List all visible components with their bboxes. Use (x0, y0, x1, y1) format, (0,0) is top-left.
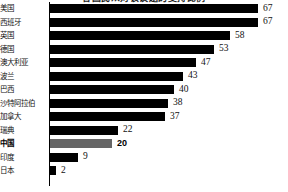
chart-row: 英国 58 (0, 29, 288, 43)
value-label: 9 (83, 150, 88, 164)
chart-row: 德国 53 (0, 43, 288, 57)
category-label: 西班牙 (0, 16, 46, 30)
category-label: 英国 (0, 29, 46, 43)
bar (50, 45, 214, 54)
value-label: 43 (188, 69, 198, 83)
value-label: 58 (235, 29, 245, 43)
value-label: 53 (219, 42, 229, 56)
bar (50, 31, 230, 40)
bar (50, 126, 118, 135)
chart-row: 印度 9 (0, 151, 288, 165)
chart-row-highlighted: 中国 20 (0, 137, 288, 151)
chart-row: 日本 2 (0, 164, 288, 178)
chart-row: 加拿大 37 (0, 110, 288, 124)
value-label-highlighted: 20 (117, 137, 127, 151)
value-label: 67 (263, 2, 273, 16)
category-label-highlighted: 中国 (0, 137, 46, 151)
bar (50, 72, 183, 81)
bar (50, 18, 258, 27)
plot-area: 美国 67 西班牙 67 英国 58 德国 53 澳大利亚 47 (0, 2, 288, 192)
value-label: 47 (201, 56, 211, 70)
category-label: 日本 (0, 164, 46, 178)
bar (50, 112, 165, 121)
value-label: 38 (173, 96, 183, 110)
category-label: 巴西 (0, 83, 46, 97)
chart-row: 瑞典 22 (0, 124, 288, 138)
bar-highlighted (50, 139, 112, 148)
bar (50, 153, 78, 162)
chart-row: 澳大利亚 47 (0, 56, 288, 70)
chart-row: 沙特阿拉伯 38 (0, 97, 288, 111)
bar (50, 99, 168, 108)
category-label: 德国 (0, 43, 46, 57)
value-label: 2 (61, 164, 66, 178)
value-label: 22 (123, 123, 133, 137)
bar (50, 4, 258, 13)
category-label: 澳大利亚 (0, 56, 46, 70)
category-label: 加拿大 (0, 110, 46, 124)
category-label: 波兰 (0, 70, 46, 84)
bar (50, 166, 56, 175)
bar-chart: 各国民众对该议题的支持比例 美国 67 西班牙 67 英国 58 德国 53 (0, 0, 288, 192)
value-label: 40 (179, 83, 189, 97)
value-label: 37 (170, 110, 180, 124)
category-label: 沙特阿拉伯 (0, 97, 46, 111)
category-label: 印度 (0, 151, 46, 165)
chart-row: 美国 67 (0, 2, 288, 16)
category-label: 瑞典 (0, 124, 46, 138)
chart-row: 巴西 40 (0, 83, 288, 97)
chart-row: 西班牙 67 (0, 16, 288, 30)
bar (50, 58, 196, 67)
bar (50, 85, 174, 94)
category-label: 美国 (0, 2, 46, 16)
chart-row: 波兰 43 (0, 70, 288, 84)
value-label: 67 (263, 15, 273, 29)
